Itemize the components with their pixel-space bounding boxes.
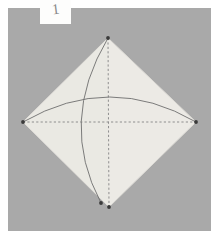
dot-left	[21, 120, 25, 124]
diagram-svg	[0, 0, 218, 238]
dot-top	[106, 36, 110, 40]
figure-panel	[0, 0, 218, 238]
dot-right	[194, 120, 198, 124]
dot-arc-end	[99, 201, 103, 205]
dot-bottom	[107, 205, 111, 209]
step-number-text: 1	[51, 2, 61, 20]
step-number-label: 1	[40, 0, 71, 24]
